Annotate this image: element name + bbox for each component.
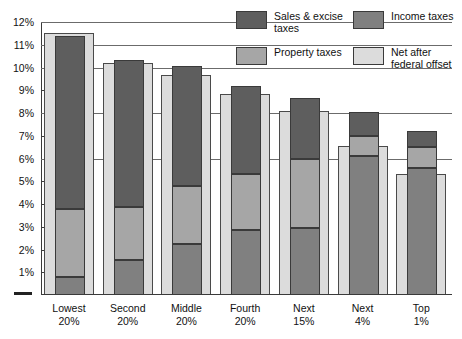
- bar-segment-sales: [290, 98, 320, 158]
- stacked-bar: [290, 98, 320, 295]
- tax-incidence-bar-chart: 12%11%10%9%8%7%6%5%4%3%2%1% Lowest20%Sec…: [0, 0, 462, 339]
- legend-item-income-taxes: Income taxes: [353, 10, 458, 29]
- bar-segment-income: [114, 260, 144, 295]
- y-axis-tick-label: 12%: [0, 17, 34, 27]
- y-axis-tick-label: 9%: [0, 85, 34, 95]
- y-axis-tick-label: 7%: [0, 131, 34, 141]
- legend-item-sales-excise-taxes: Sales & excise taxes: [236, 10, 346, 34]
- bar-segment-sales: [407, 131, 437, 147]
- stacked-bar: [407, 131, 437, 295]
- bar-segment-property: [55, 209, 85, 277]
- x-axis-label-line: 1%: [386, 315, 456, 328]
- bar-segment-sales: [349, 112, 379, 136]
- bar-segment-income: [290, 228, 320, 295]
- x-axis-category-label: Top1%: [386, 302, 456, 327]
- bar-group: [158, 22, 217, 295]
- y-axis-tick-label: 8%: [0, 108, 34, 118]
- legend-swatch-sales-excise-icon: [236, 11, 267, 29]
- bar-segment-property: [231, 174, 261, 230]
- legend-swatch-income-icon: [353, 11, 384, 29]
- bar-group: [100, 22, 159, 295]
- x-axis-label-line: Top: [386, 302, 456, 315]
- y-axis-tick-label: 1%: [0, 267, 34, 277]
- bar-segment-property: [172, 186, 202, 244]
- stacked-bar: [231, 86, 261, 295]
- bar-segment-income: [172, 244, 202, 295]
- y-axis-tick-label: 4%: [0, 199, 34, 209]
- legend-item-property-taxes: Property taxes: [236, 46, 346, 65]
- legend-label-net: Net after federal offset: [391, 46, 458, 70]
- y-axis-tick-label: 2%: [0, 245, 34, 255]
- y-axis-tick-label: 10%: [0, 63, 34, 73]
- bar-segment-sales: [172, 66, 202, 185]
- legend-item-net-after-federal-offset: Net after federal offset: [353, 46, 458, 70]
- bar-segment-income: [407, 168, 437, 295]
- chart-legend: Sales & excise taxes Income taxes Proper…: [236, 10, 458, 74]
- axis-origin-mark: [14, 292, 32, 295]
- x-axis-baseline: [41, 294, 452, 295]
- legend-swatch-property-icon: [236, 47, 267, 65]
- bar-segment-property: [114, 207, 144, 259]
- bar-segment-property: [407, 147, 437, 167]
- bar-segment-sales: [55, 36, 85, 209]
- bar-segment-property: [349, 136, 379, 156]
- bar-group: [41, 22, 100, 295]
- bar-segment-sales: [231, 86, 261, 175]
- stacked-bar: [172, 66, 202, 295]
- bar-segment-income: [231, 230, 261, 295]
- bar-segment-income: [349, 156, 379, 295]
- stacked-bar: [349, 112, 379, 295]
- stacked-bar: [114, 60, 144, 295]
- legend-label-income: Income taxes: [391, 10, 453, 22]
- legend-swatch-net-icon: [353, 47, 384, 65]
- y-axis-tick-label: 3%: [0, 222, 34, 232]
- bar-segment-property: [290, 159, 320, 228]
- legend-label-sales-excise: Sales & excise taxes: [274, 10, 346, 34]
- bar-segment-income: [55, 277, 85, 295]
- y-axis-tick-label: 11%: [0, 40, 34, 50]
- bar-segment-sales: [114, 60, 144, 208]
- stacked-bar: [55, 36, 85, 295]
- y-axis-tick-label: 5%: [0, 176, 34, 186]
- y-axis-tick-label: 6%: [0, 154, 34, 164]
- legend-label-property: Property taxes: [274, 46, 342, 58]
